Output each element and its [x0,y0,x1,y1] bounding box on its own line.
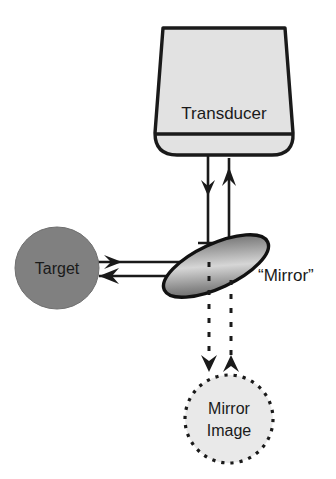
virtual-beam-down-arrowhead [201,355,217,372]
target-label: Target [35,260,80,277]
mirror-label: “Mirror” [258,266,314,285]
mirror-image-label-line1: Mirror [208,400,250,417]
mirror-image-label-line2: Image [207,422,252,439]
diagram-canvas: Transducer Target [0,0,336,479]
ultrasound-mirror-diagram: Transducer Target [0,0,336,479]
transducer-label: Transducer [181,104,267,123]
mirror-image-group: Mirror Image [185,375,273,463]
transducer-body [155,28,293,155]
virtual-beam-up-arrowhead [223,355,239,372]
mirror-image-shape [185,375,273,463]
transducer-group: Transducer [155,28,293,155]
mirror-group: “Mirror” [155,222,314,310]
target-group: Target [15,227,99,309]
